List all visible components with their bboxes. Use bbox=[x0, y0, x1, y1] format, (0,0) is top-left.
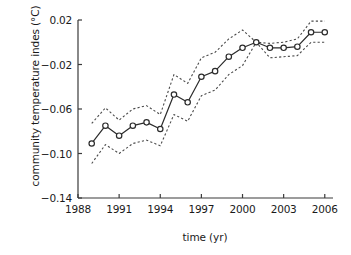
series-line bbox=[92, 32, 325, 143]
lower-confidence-band bbox=[92, 42, 325, 163]
plot-area bbox=[0, 0, 351, 255]
axis-tick-marks bbox=[78, 20, 325, 198]
upper-confidence-band bbox=[92, 21, 325, 123]
chart-figure: community temperature indes (°C) 0.02 −0… bbox=[0, 0, 351, 255]
